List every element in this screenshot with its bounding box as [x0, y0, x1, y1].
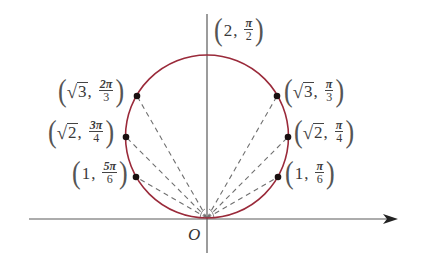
label-1-pi6: ( 1, π6 )	[285, 160, 335, 186]
close-paren: )	[335, 75, 344, 108]
open-paren: (	[72, 157, 81, 190]
sqrt-icon: √	[303, 123, 313, 142]
open-paren: (	[58, 75, 67, 108]
ray-pi3	[207, 96, 277, 218]
label-sqrt3-pi3: ( √3, π3 )	[284, 78, 344, 104]
theta-fraction: π4	[335, 120, 344, 144]
r-value: 2	[224, 22, 233, 39]
theta-fraction: π3	[325, 79, 334, 103]
comma: ,	[314, 83, 318, 100]
close-paren: )	[326, 157, 335, 190]
comma: ,	[88, 83, 92, 100]
sqrt-expression: √2	[57, 123, 78, 142]
ray-2pi3	[137, 96, 207, 218]
point-sqrt2-pi4	[285, 134, 292, 141]
theta-fraction: π6	[315, 161, 324, 185]
point-sqrt3-2pi3	[134, 93, 141, 100]
theta-fraction: π2	[244, 18, 253, 42]
sqrt-expression: √2	[303, 123, 324, 142]
comma: ,	[324, 124, 328, 141]
open-paren: (	[214, 14, 223, 47]
label-sqrt3-2pi3: ( √3, 2π3 )	[58, 78, 124, 104]
comma: ,	[91, 165, 95, 182]
open-paren: (	[48, 116, 57, 149]
close-paren: )	[119, 157, 128, 190]
label-sqrt2-pi4: ( √2, π4 )	[294, 119, 354, 145]
label-sqrt2-3pi4: ( √2, 3π4 )	[48, 119, 114, 145]
polar-diagram: O ( 2, π2 ) ( √3, π3 ) ( √2, π4 ) ( 1, π…	[0, 0, 423, 277]
theta-denominator: 4	[93, 132, 99, 144]
point-1-pi6	[275, 174, 282, 181]
theta-denominator: 3	[326, 91, 332, 103]
sqrt-argument: 2	[313, 123, 324, 142]
sqrt-expression: √3	[293, 82, 314, 101]
sqrt-argument: 2	[67, 123, 78, 142]
origin-label: O	[188, 225, 200, 245]
point-sqrt3-pi3	[274, 93, 281, 100]
open-paren: (	[294, 116, 303, 149]
r-value: 1	[82, 165, 91, 182]
sqrt-argument: 3	[303, 82, 314, 101]
open-paren: (	[284, 75, 293, 108]
sqrt-icon: √	[67, 82, 77, 101]
point-1-5pi6	[133, 174, 140, 181]
theta-fraction: 5π6	[102, 161, 117, 185]
sqrt-icon: √	[57, 123, 67, 142]
theta-fraction: 3π4	[89, 120, 104, 144]
r-value: 1	[295, 165, 304, 182]
sqrt-expression: √3	[67, 82, 88, 101]
theta-denominator: 3	[103, 91, 109, 103]
sqrt-icon: √	[293, 82, 303, 101]
theta-denominator: 2	[246, 30, 252, 42]
close-paren: )	[105, 116, 114, 149]
point-sqrt2-3pi4	[123, 134, 130, 141]
close-paren: )	[115, 75, 124, 108]
sqrt-argument: 3	[77, 82, 88, 101]
theta-denominator: 6	[107, 173, 113, 185]
theta-denominator: 6	[317, 173, 323, 185]
close-paren: )	[255, 14, 264, 47]
label-1-5pi6: ( 1, 5π6 )	[72, 160, 128, 186]
theta-fraction: 2π3	[99, 79, 114, 103]
comma: ,	[78, 124, 82, 141]
comma: ,	[304, 165, 308, 182]
comma: ,	[233, 22, 237, 39]
open-paren: (	[285, 157, 294, 190]
label-top-point: ( 2, π2 )	[214, 17, 264, 43]
theta-denominator: 4	[336, 132, 342, 144]
close-paren: )	[345, 116, 354, 149]
